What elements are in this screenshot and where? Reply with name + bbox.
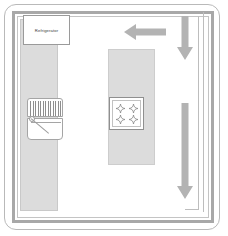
range-oven: [27, 98, 63, 140]
range-grate-bar: [53, 101, 54, 116]
range-grate-bar: [30, 101, 31, 116]
range-grate-bar: [50, 101, 51, 116]
range-grate-bar: [48, 101, 49, 116]
wall-return-line-bottom: [185, 209, 199, 210]
burner-bottom-left-icon: [116, 115, 125, 124]
burner-top-right-icon: [129, 104, 138, 113]
range-grate-bar: [45, 101, 46, 116]
range-grate-panel: [27, 98, 63, 117]
island-cooktop: [109, 97, 144, 130]
range-grate-bar: [58, 101, 59, 116]
refrigerator: Refrigerator: [23, 15, 70, 45]
arrow-left-icon: [124, 24, 166, 40]
kitchen-floorplan-diagram: Refrigerator: [0, 0, 228, 236]
range-grate-bar: [38, 101, 39, 116]
arrow-down-lower-icon: [177, 103, 193, 199]
range-grate-bar: [40, 101, 41, 116]
wall-return-line-outer: [198, 16, 199, 210]
wall-return-line-inner: [203, 12, 204, 212]
range-grate-bar: [35, 101, 36, 116]
range-grate-bar: [55, 101, 56, 116]
range-grate-bar: [43, 101, 44, 116]
range-grate-bar: [33, 101, 34, 116]
range-grate-bar: [60, 101, 61, 116]
arrow-down-upper-icon: [177, 16, 193, 60]
burner-bottom-right-icon: [129, 115, 138, 124]
refrigerator-label: Refrigerator: [35, 28, 58, 33]
burner-top-left-icon: [116, 104, 125, 113]
